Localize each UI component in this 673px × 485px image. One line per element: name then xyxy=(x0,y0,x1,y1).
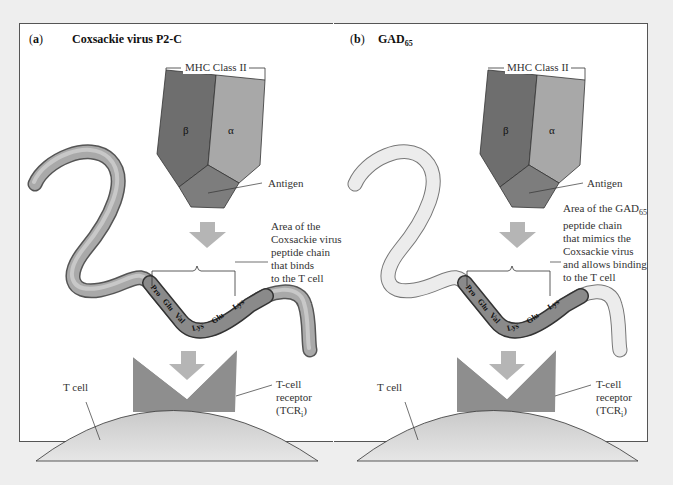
tcr-label: T-cell receptor (TCRi) xyxy=(276,378,312,421)
beta-label: β xyxy=(503,124,509,137)
mhc-alpha-chain xyxy=(208,75,265,183)
t-cell-label: T cell xyxy=(377,381,402,394)
down-arrow-icon xyxy=(189,222,226,248)
panel-a-letter: (a) xyxy=(29,32,43,47)
mhc-class-label: MHC Class II xyxy=(505,61,571,74)
down-arrow-icon xyxy=(499,222,536,248)
mhc-alpha-chain xyxy=(529,75,585,183)
antigen-label: Antigen xyxy=(587,177,622,190)
area-label: Area of the GAD65 peptide chain that mim… xyxy=(563,202,647,284)
t-cell-label: T cell xyxy=(63,381,88,394)
tcr-label: T-cell receptor (TCRi) xyxy=(596,378,632,421)
panel-b-letter: (b) xyxy=(350,32,365,47)
beta-label: β xyxy=(183,124,189,137)
panel-a-title: Coxsackie virus P2-C xyxy=(72,32,182,47)
area-label: Area of the Coxsackie virus peptide chai… xyxy=(271,220,342,285)
alpha-label: α xyxy=(549,124,555,137)
antigen-label: Antigen xyxy=(268,177,303,190)
alpha-label: α xyxy=(228,124,234,137)
mhc-class-label: MHC Class II xyxy=(183,61,249,74)
panel-b-title: GAD65 xyxy=(378,32,413,48)
